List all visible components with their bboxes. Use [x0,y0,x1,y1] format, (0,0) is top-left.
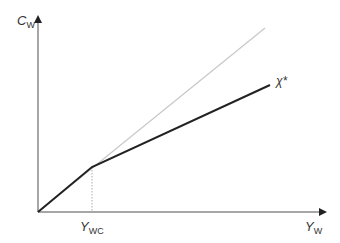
kink-label: YWC [80,220,104,236]
diagram-canvas [0,0,340,243]
y-axis-label: CW [17,14,35,30]
chi-star-curve [38,85,270,212]
chi-star-label: χ* [276,75,287,87]
x-axis-label: YW [305,220,322,236]
